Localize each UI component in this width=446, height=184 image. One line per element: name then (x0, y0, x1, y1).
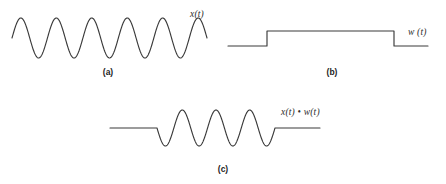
signal-label-xt-wt: x(t) • w(t) (281, 107, 320, 117)
figure-container: x(t) (a) w (t) (b) x(t) • w(t) (c) (0, 0, 446, 184)
panel-caption-c: (c) (193, 164, 253, 174)
signal-label-xt: x(t) (190, 9, 204, 19)
sinusoid-curve (12, 18, 207, 58)
panel-caption-b: (b) (302, 67, 362, 77)
panel-caption-a: (a) (78, 67, 138, 77)
window-curve (228, 31, 428, 46)
signal-label-wt: w (t) (408, 27, 427, 37)
